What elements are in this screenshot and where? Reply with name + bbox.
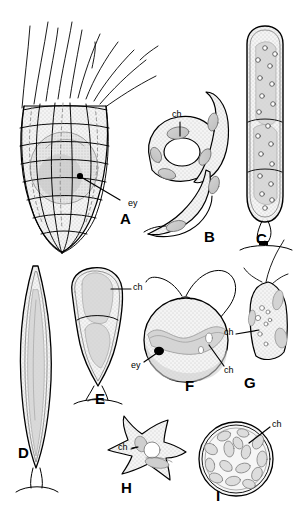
panel-letter-c: C — [256, 231, 267, 246]
plate-drawing — [0, 0, 302, 517]
panel-letter-g: G — [244, 375, 256, 390]
annotation-ch-panel-g: ch — [224, 328, 234, 337]
panel-a-drawing — [20, 22, 158, 253]
annotation-ch-panel-b: ch — [172, 110, 182, 119]
panel-f-drawing — [144, 270, 236, 382]
annotation-ch-panel-i: ch — [272, 420, 282, 429]
panel-letter-b: B — [204, 229, 215, 244]
annotation-ch-panel-e: ch — [133, 283, 143, 292]
panel-c-drawing — [240, 26, 292, 250]
panel-letter-d: D — [18, 445, 29, 460]
panel-letter-h: H — [121, 480, 132, 495]
panel-letter-i: I — [216, 488, 220, 503]
panel-g-drawing — [236, 240, 288, 359]
panel-e-drawing — [72, 268, 131, 404]
panel-letter-a: A — [120, 211, 131, 226]
annotation-ey-panel-a: ey — [128, 199, 138, 208]
panel-i-drawing — [199, 422, 273, 496]
panel-b-drawing — [144, 92, 228, 237]
annotation-ey-panel-f: ey — [131, 361, 141, 370]
panel-letter-e: E — [95, 391, 105, 406]
figure-plate: A B C D E F G H I ey ch ch ey ch ch ch c… — [0, 0, 302, 517]
annotation-ch-panel-f: ch — [224, 366, 234, 375]
panel-letter-f: F — [185, 378, 194, 393]
annotation-ch-panel-h: ch — [118, 443, 128, 452]
